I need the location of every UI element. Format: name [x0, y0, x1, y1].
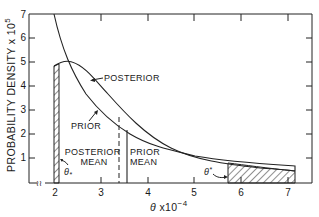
theta-upper-label: θ* [204, 166, 212, 177]
x-tick-labels: 2 3 4 5 6 7 [52, 187, 291, 198]
svg-text:3: 3 [20, 104, 26, 115]
svg-text:6: 6 [238, 187, 244, 198]
y-ticks-right [306, 38, 312, 158]
svg-text:7: 7 [285, 187, 291, 198]
svg-text:2: 2 [20, 128, 26, 139]
prior-label: PRIOR [71, 121, 101, 131]
posterior-label: POSTERIOR [104, 73, 160, 83]
axis-break-icon: ≀≀ [36, 179, 42, 188]
shaded-region-upper-tail [228, 163, 295, 183]
prior-mean-label: PRIOR MEAN [130, 147, 163, 167]
y-tick-labels: 1 2 3 4 5 6 7 [20, 9, 26, 163]
posterior-mean-label: POSTERIOR MEAN [65, 147, 124, 167]
x-ticks-top [101, 14, 288, 21]
svg-text:5: 5 [191, 187, 197, 198]
arrowhead-icon [224, 175, 228, 179]
svg-text:3: 3 [98, 187, 104, 198]
svg-text:4: 4 [145, 187, 151, 198]
svg-text:1: 1 [20, 152, 26, 163]
svg-text:5: 5 [20, 56, 26, 67]
probability-density-chart: ≀≀ 1 2 3 4 5 6 7 [0, 0, 319, 217]
theta-lower-label: θ* [64, 167, 72, 178]
svg-text:6: 6 [20, 32, 26, 43]
plot-frame [29, 14, 312, 183]
x-axis-title: θ x10−4 [150, 199, 188, 213]
arrowhead-icon [90, 78, 95, 82]
svg-text:2: 2 [52, 187, 58, 198]
y-axis-title: PROBABILITY DENSITY x 105 [3, 18, 17, 172]
svg-text:7: 7 [20, 9, 26, 20]
y-ticks-left [29, 38, 35, 158]
svg-text:4: 4 [20, 80, 26, 91]
shaded-region-lower-tail [54, 64, 59, 183]
